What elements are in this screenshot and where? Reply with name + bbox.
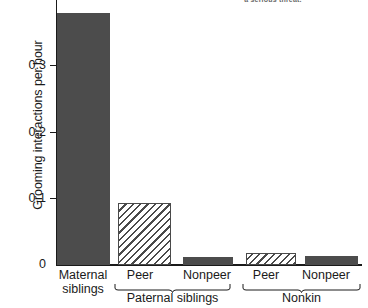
- bar-paternal-nonpeer: [183, 257, 233, 265]
- y-tick-label-0.1: 0.1: [10, 191, 46, 205]
- bars-layer: [56, 0, 362, 265]
- bar-nonkin-nonpeer: [305, 256, 358, 265]
- group-label-paternal-siblings: Paternal siblings: [114, 291, 231, 305]
- bar-paternal-peer: [118, 203, 171, 265]
- y-tick-label-0: 0: [10, 257, 46, 271]
- bar-maternal-siblings: [57, 13, 110, 265]
- y-tick-label-0.3: 0.3: [10, 58, 46, 72]
- grooming-interactions-bar-chart: a serious threat. Grooming interactions …: [0, 0, 368, 308]
- x-label-nonkin-nonpeer: Nonpeer: [276, 268, 368, 282]
- bar-nonkin-peer: [246, 253, 296, 265]
- group-label-nonkin: Nonkin: [242, 291, 361, 305]
- y-tick-label-0.2: 0.2: [10, 125, 46, 139]
- x-label-line2: siblings: [55, 282, 111, 296]
